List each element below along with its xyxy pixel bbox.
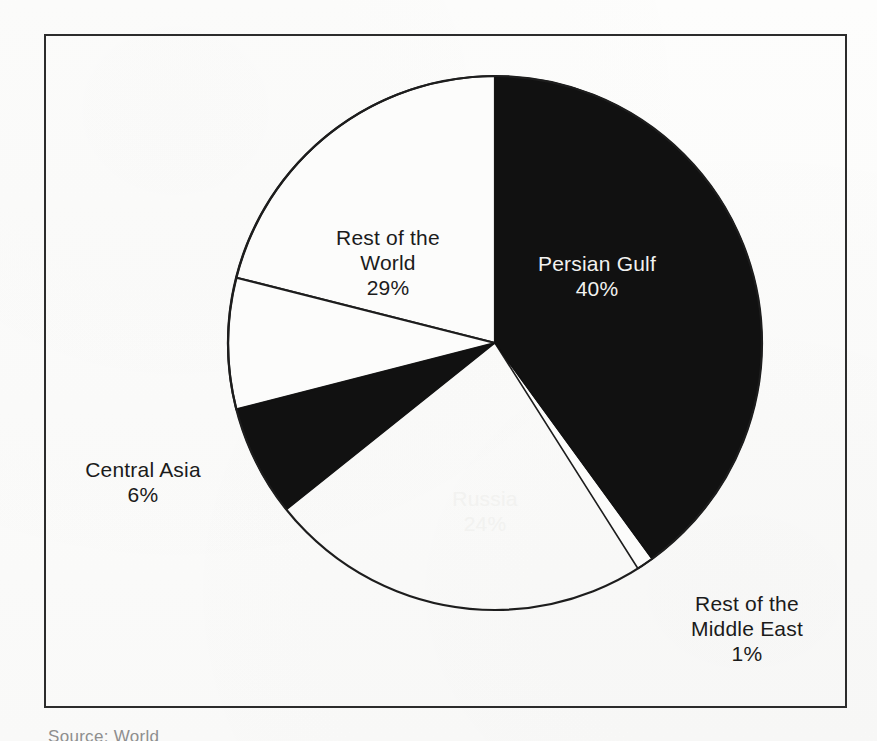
figure-page: Persian Gulf 40% Rest of the World 29% R… (0, 0, 877, 741)
pie-chart (0, 0, 877, 741)
figure-caption: Source: World (48, 727, 159, 741)
pie-slice-persian-gulf (495, 76, 762, 559)
